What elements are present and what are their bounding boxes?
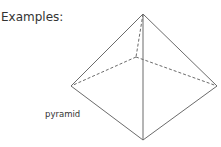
hidden-edge-back-left — [71, 57, 136, 86]
edge-left-front — [71, 86, 143, 140]
edge-apex-left — [71, 14, 143, 86]
edge-right-front — [143, 86, 217, 140]
pyramid-label: pyramid — [45, 109, 80, 119]
pyramid-diagram — [0, 0, 221, 147]
hidden-edge-back-right — [136, 57, 217, 86]
edge-apex-right — [143, 14, 217, 86]
